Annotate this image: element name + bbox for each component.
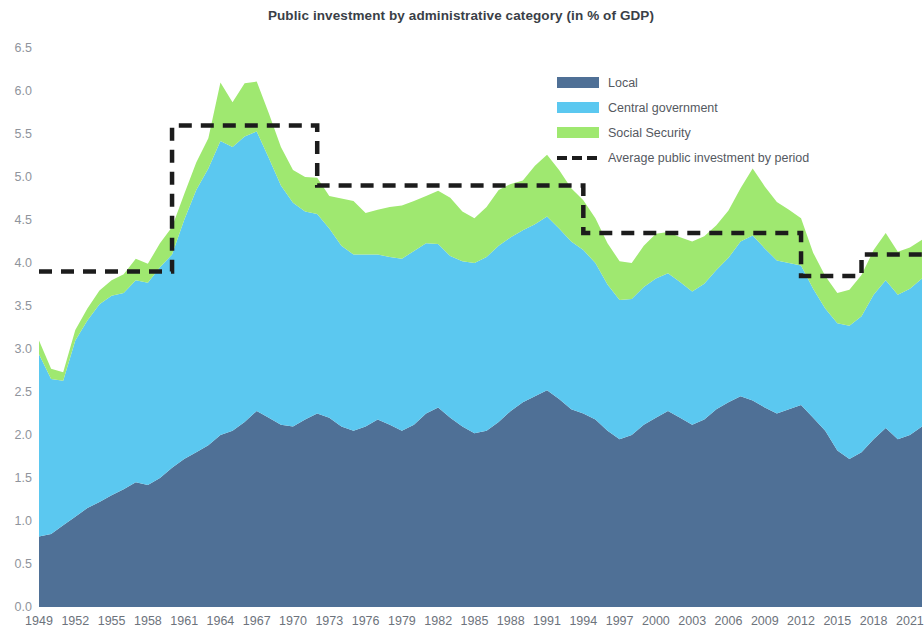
- legend-item-local[interactable]: Local: [557, 70, 857, 95]
- legend-swatch-local: [557, 77, 599, 88]
- x-tick-label: 1958: [134, 614, 162, 628]
- y-tick-label: 0.5: [2, 557, 32, 571]
- x-tick-label: 1976: [352, 614, 380, 628]
- y-tick-label: 6.5: [2, 41, 32, 55]
- x-tick-label: 2009: [751, 614, 779, 628]
- y-tick-label: 2.5: [2, 385, 32, 399]
- y-tick-label: 1.0: [2, 514, 32, 528]
- x-tick-label: 1970: [279, 614, 307, 628]
- legend-item-average-public-investment[interactable]: Average public investment by period: [557, 145, 857, 170]
- x-tick-label: 2012: [787, 614, 815, 628]
- y-tick-label: 4.0: [2, 256, 32, 270]
- x-tick-label: 2000: [642, 614, 670, 628]
- x-tick-label: 1979: [388, 614, 416, 628]
- y-tick-label: 3.5: [2, 299, 32, 313]
- y-tick-label: 5.0: [2, 170, 32, 184]
- y-tick-label: 2.0: [2, 428, 32, 442]
- y-tick-label: 5.5: [2, 127, 32, 141]
- x-tick-label: 2018: [860, 614, 888, 628]
- legend-label-average-public-investment: Average public investment by period: [608, 151, 809, 165]
- legend-item-central-government[interactable]: Central government: [557, 95, 857, 120]
- x-tick-label: 2006: [715, 614, 743, 628]
- legend-label-local: Local: [608, 76, 638, 90]
- x-tick-label: 1967: [243, 614, 271, 628]
- y-tick-label: 0.0: [2, 600, 32, 614]
- y-tick-label: 3.0: [2, 342, 32, 356]
- x-tick-label: 1964: [206, 614, 234, 628]
- x-tick-label: 1949: [25, 614, 53, 628]
- x-tick-label: 1955: [98, 614, 126, 628]
- x-tick-label: 1997: [606, 614, 634, 628]
- x-tick-label: 1961: [170, 614, 198, 628]
- x-tick-label: 1952: [61, 614, 89, 628]
- x-tick-label: 1988: [497, 614, 525, 628]
- x-tick-label: 2021: [896, 614, 924, 628]
- legend-label-social-security: Social Security: [608, 126, 691, 140]
- x-tick-label: 1973: [315, 614, 343, 628]
- chart-legend: Local Central government Social Security…: [557, 70, 857, 170]
- y-tick-label: 4.5: [2, 213, 32, 227]
- legend-swatch-social-security: [557, 127, 599, 138]
- legend-dash-average-line: [557, 152, 599, 163]
- x-tick-label: 2003: [678, 614, 706, 628]
- legend-swatch-central-government: [557, 102, 599, 113]
- x-tick-label: 1991: [533, 614, 561, 628]
- legend-label-central-government: Central government: [608, 101, 718, 115]
- x-tick-label: 2015: [823, 614, 851, 628]
- x-tick-label: 1994: [569, 614, 597, 628]
- y-tick-label: 1.5: [2, 471, 32, 485]
- y-tick-label: 6.0: [2, 84, 32, 98]
- x-tick-label: 1982: [424, 614, 452, 628]
- x-tick-label: 1985: [461, 614, 489, 628]
- legend-item-social-security[interactable]: Social Security: [557, 120, 857, 145]
